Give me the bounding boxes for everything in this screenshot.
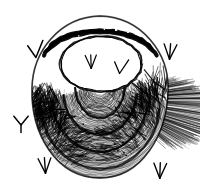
ink-speck xyxy=(126,155,128,156)
ink-speck xyxy=(112,120,114,121)
ink-speck xyxy=(69,150,71,152)
ink-speck xyxy=(101,146,103,147)
ink-speck xyxy=(126,113,127,114)
shoulder-shading-line xyxy=(139,113,145,114)
ink-speck xyxy=(64,129,66,131)
ink-speck xyxy=(147,132,148,133)
shell-opening xyxy=(59,36,142,92)
rim-highlight-nick xyxy=(115,29,117,31)
rim-highlight-nick xyxy=(104,29,105,30)
flank-shading-line xyxy=(59,144,63,145)
ink-speck xyxy=(67,149,68,150)
rim-highlight-nick xyxy=(132,28,134,30)
ink-speck xyxy=(114,128,115,129)
rim-highlight-nick xyxy=(105,40,106,42)
rim-highlight-nick xyxy=(78,35,79,36)
rim-highlight-nick xyxy=(127,31,129,33)
ink-speck xyxy=(85,156,86,157)
flank-shading-line xyxy=(72,150,81,151)
shoulder-shading-line xyxy=(152,85,153,99)
ink-speck xyxy=(122,141,124,143)
ink-speck xyxy=(95,147,96,148)
shell-drawing xyxy=(0,0,200,191)
ink-speck xyxy=(123,152,125,153)
ink-speck xyxy=(88,147,89,148)
ink-speck xyxy=(114,143,116,145)
ink-speck xyxy=(117,150,119,152)
ink-speck xyxy=(83,124,84,126)
rim-highlight-nick xyxy=(68,27,70,29)
ink-speck xyxy=(144,139,146,140)
ink-speck xyxy=(123,120,124,122)
shoulder-shading-line xyxy=(162,85,163,101)
ink-speck xyxy=(65,143,67,144)
illustration-canvas: Pen-and-ink shell illustration bivalve s… xyxy=(0,0,200,191)
ink-speck xyxy=(129,121,130,122)
